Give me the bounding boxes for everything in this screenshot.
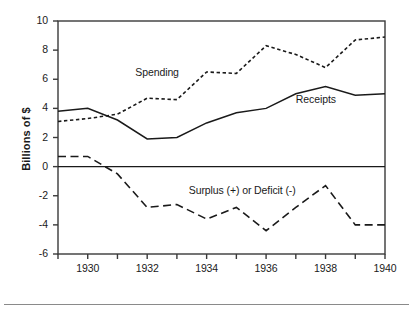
plot-frame bbox=[58, 21, 385, 254]
y-tick-label: -6 bbox=[22, 247, 48, 259]
series-label-receipts: Receipts bbox=[296, 93, 336, 105]
y-tick-label: 2 bbox=[22, 131, 48, 143]
y-tick-label: 0 bbox=[22, 160, 48, 172]
y-tick-label: -2 bbox=[22, 189, 48, 201]
series-line-spending bbox=[58, 37, 385, 121]
y-tick-label: 4 bbox=[22, 101, 48, 113]
footer-divider bbox=[4, 304, 409, 305]
y-tick-label: 10 bbox=[22, 14, 48, 26]
x-axis-ticks bbox=[58, 254, 385, 259]
x-tick-label: 1934 bbox=[185, 262, 229, 274]
y-tick-label: 8 bbox=[22, 43, 48, 55]
series-label-surplus-or-deficit: Surplus (+) or Deficit (-) bbox=[189, 184, 296, 196]
y-axis-ticks bbox=[53, 21, 58, 254]
series-line-receipts bbox=[58, 87, 385, 139]
x-tick-label: 1936 bbox=[244, 262, 288, 274]
data-series-group bbox=[58, 37, 385, 231]
plot-border bbox=[58, 21, 385, 254]
y-tick-label: -4 bbox=[22, 218, 48, 230]
x-tick-label: 1938 bbox=[304, 262, 348, 274]
y-tick-label: 6 bbox=[22, 72, 48, 84]
series-label-spending: Spending bbox=[135, 66, 179, 78]
chart-container: Billions of $ -6-4-20246810 193019321934… bbox=[0, 0, 413, 311]
x-tick-label: 1932 bbox=[125, 262, 169, 274]
x-tick-label: 1930 bbox=[66, 262, 110, 274]
x-tick-label: 1940 bbox=[363, 262, 407, 274]
